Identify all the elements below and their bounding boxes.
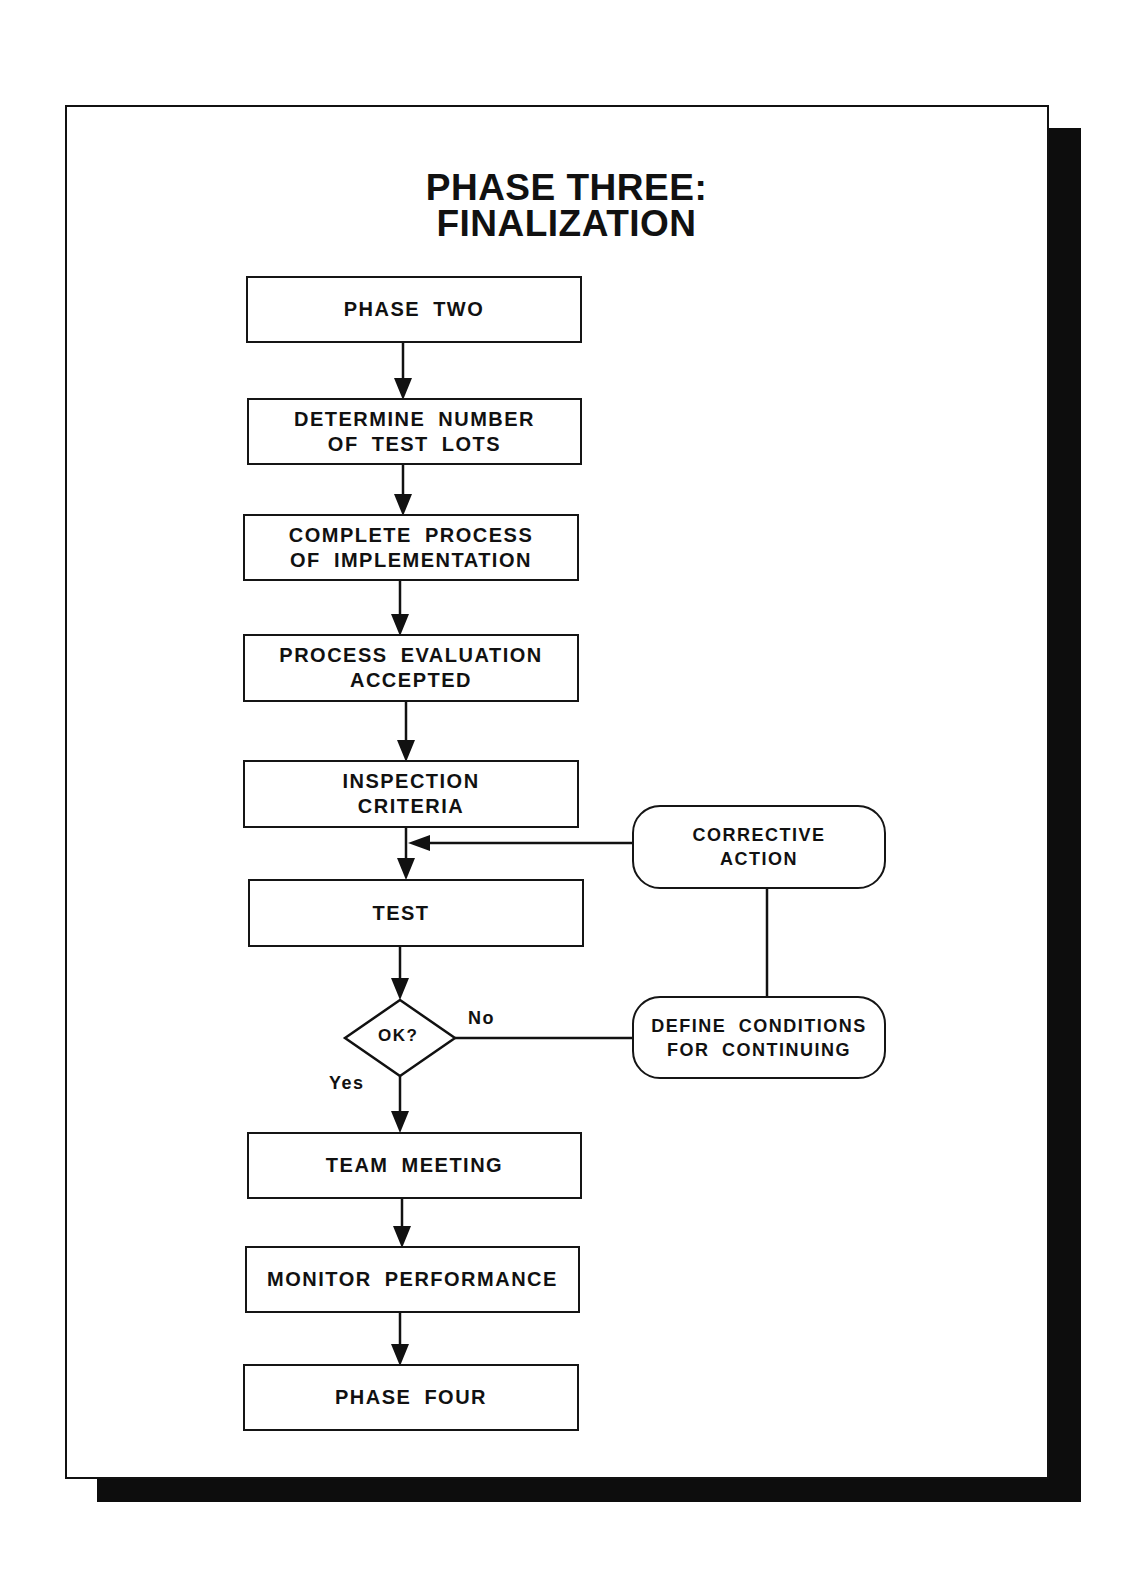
node-label: PHASE TWO: [344, 297, 485, 322]
node-label-line-2: OF TEST LOTS: [328, 432, 501, 457]
arrow-down-icon: [394, 494, 412, 516]
node-label-line-1: DETERMINE NUMBER: [294, 407, 535, 432]
node-label: PHASE FOUR: [335, 1385, 487, 1410]
node-label-line-1: INSPECTION: [342, 769, 479, 794]
arrow-down-icon: [394, 378, 412, 400]
node-label-line-2: CRITERIA: [358, 794, 464, 819]
arrow-down-icon: [391, 978, 409, 1000]
node-phase-four: PHASE FOUR: [243, 1364, 579, 1431]
node-team-meeting: TEAM MEETING: [247, 1132, 582, 1199]
arrow-down-icon: [397, 740, 415, 762]
node-phase-two: PHASE TWO: [246, 276, 582, 343]
node-label-line-1: CORRECTIVE: [692, 823, 825, 847]
node-corrective-action: CORRECTIVE ACTION: [632, 805, 886, 889]
node-label: TEAM MEETING: [326, 1153, 503, 1178]
node-complete-process: COMPLETE PROCESS OF IMPLEMENTATION: [243, 514, 579, 581]
arrow-down-icon: [391, 1111, 409, 1133]
edge-label-yes: Yes: [329, 1073, 365, 1094]
node-label-line-1: COMPLETE PROCESS: [289, 523, 533, 548]
node-test: TEST: [248, 879, 584, 947]
node-label: TEST: [372, 901, 429, 926]
arrow-down-icon: [393, 1226, 411, 1248]
node-define-conditions: DEFINE CONDITIONS FOR CONTINUING: [632, 996, 886, 1079]
node-label-line-1: PROCESS EVALUATION: [279, 643, 542, 668]
node-monitor-performance: MONITOR PERFORMANCE: [245, 1246, 580, 1313]
node-determine-test-lots: DETERMINE NUMBER OF TEST LOTS: [247, 398, 582, 465]
node-label: MONITOR PERFORMANCE: [267, 1267, 558, 1292]
decision-label-ok: OK?: [378, 1026, 418, 1046]
node-label-line-2: ACCEPTED: [350, 668, 472, 693]
edge-label-no: No: [468, 1008, 495, 1029]
node-process-evaluation: PROCESS EVALUATION ACCEPTED: [243, 634, 579, 702]
node-label-line-2: ACTION: [720, 847, 798, 871]
arrow-down-icon: [391, 614, 409, 636]
arrow-left-icon: [408, 835, 430, 851]
arrow-down-icon: [391, 1344, 409, 1366]
node-inspection-criteria: INSPECTION CRITERIA: [243, 760, 579, 828]
node-label-line-1: DEFINE CONDITIONS: [651, 1014, 867, 1038]
node-label-line-2: FOR CONTINUING: [667, 1038, 851, 1062]
node-label-line-2: OF IMPLEMENTATION: [290, 548, 532, 573]
arrow-down-icon: [397, 858, 415, 880]
